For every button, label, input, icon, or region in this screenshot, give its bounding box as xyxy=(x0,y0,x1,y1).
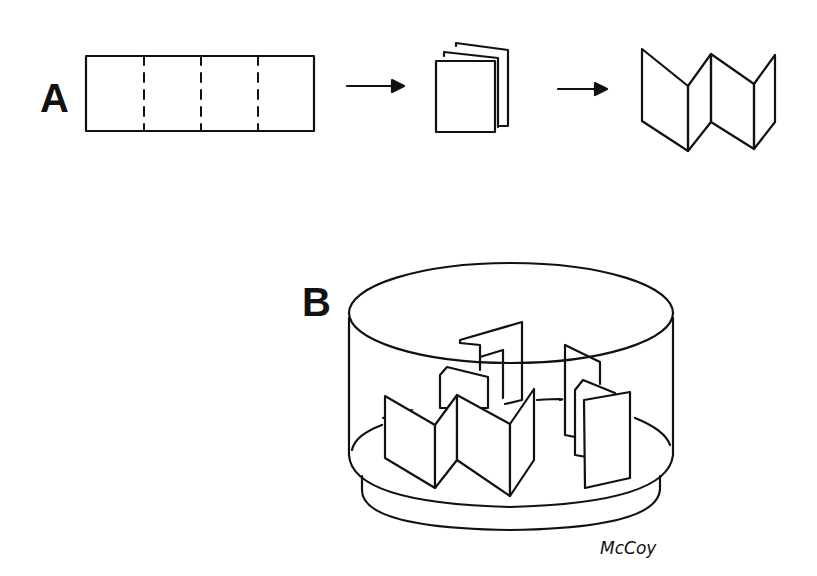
dish-strips xyxy=(385,322,630,496)
zigzag-strip xyxy=(642,49,775,151)
folded-stack xyxy=(436,43,508,132)
diagram-canvas xyxy=(0,0,817,576)
flat-strip xyxy=(86,56,314,131)
arrow-right-icon xyxy=(347,80,404,92)
arrow-right-icon xyxy=(558,83,607,95)
